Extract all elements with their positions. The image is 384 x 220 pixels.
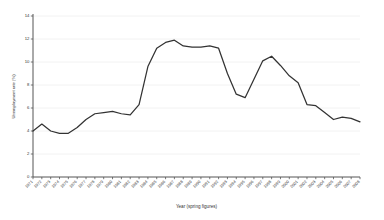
y-tick-label: 12 (25, 36, 30, 41)
y-axis-title: Unemployment rate (%) (11, 74, 16, 119)
x-axis-title: Year (spring figures) (176, 204, 218, 209)
chart-container: 02468101214 1971197219731974197519761977… (0, 0, 384, 220)
line-chart: 02468101214 1971197219731974197519761977… (0, 0, 384, 220)
y-tick-label: 10 (25, 59, 30, 64)
y-tick-label: 14 (25, 13, 30, 18)
